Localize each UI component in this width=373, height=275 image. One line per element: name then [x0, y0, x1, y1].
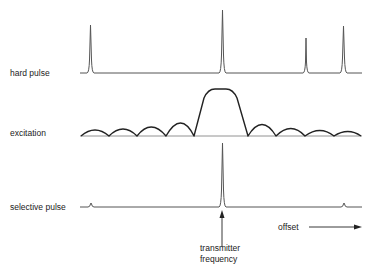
transmitter-arrow: [220, 210, 225, 247]
offset-label: offset: [278, 222, 299, 232]
excitation-label: excitation: [10, 128, 46, 138]
excitation-curve: [81, 89, 361, 136]
hard-pulse-trace: [80, 10, 362, 73]
offset-arrow: [309, 225, 362, 230]
selective-pulse-trace: [80, 143, 362, 207]
nmr-pulse-diagram: hard pulse excitation selective pulse of…: [0, 0, 373, 275]
selective-pulse-label: selective pulse: [10, 202, 66, 212]
transmitter-label-line1: transmitter: [200, 243, 240, 253]
hard-pulse-label: hard pulse: [10, 68, 50, 78]
transmitter-label-line2: frequency: [200, 254, 238, 264]
